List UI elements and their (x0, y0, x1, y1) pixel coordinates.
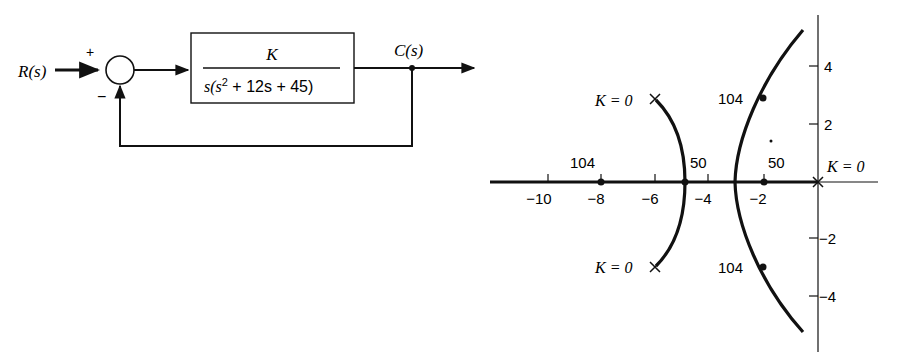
tf-numerator: K (265, 45, 279, 64)
locus-branch-upper-left (656, 100, 685, 182)
tf-denominator: s(s2 + 12s + 45) (204, 76, 313, 96)
locus-branch-lower-right (735, 182, 803, 332)
gain-label: 104 (718, 259, 743, 276)
figure-canvas: R(s) + − K s(s2 + 12s + 45) C(s) −10 (0, 0, 898, 364)
minus-sign: − (97, 88, 106, 105)
x-ticks: −10 −8 −6 −4 −2 (526, 174, 766, 207)
output-label: C(s) (394, 41, 424, 60)
summing-junction (106, 56, 134, 84)
x-tick-label: −4 (694, 190, 711, 207)
gain-label: 104 (570, 154, 595, 171)
x-tick-label: −8 (587, 190, 604, 207)
y-tick-label: 4 (824, 58, 832, 75)
pole-label: K = 0 (594, 259, 632, 276)
x-tick-label: −6 (641, 190, 658, 207)
x-tick-label: −2 (749, 190, 766, 207)
pole-x-icon-upper (650, 94, 660, 104)
locus-branch-lower-left (656, 182, 685, 266)
gain-label: 104 (718, 90, 743, 107)
x-tick-label: −10 (526, 190, 551, 207)
pole-x-icon-lower (650, 262, 660, 272)
y-tick-label: −4 (819, 288, 836, 305)
plus-sign: + (86, 44, 94, 60)
y-tick-label: 2 (824, 116, 832, 133)
block-diagram: R(s) + − K s(s2 + 12s + 45) C(s) (17, 33, 474, 146)
gain-label: 50 (690, 154, 707, 171)
root-locus-plot: −10 −8 −6 −4 −2 4 2 −2 −4 (490, 15, 878, 352)
gain-label: 50 (768, 154, 785, 171)
input-label: R(s) (17, 62, 47, 81)
pole-label: K = 0 (594, 92, 632, 109)
y-tick-label: −2 (819, 230, 836, 247)
pole-label: K = 0 (826, 158, 864, 175)
